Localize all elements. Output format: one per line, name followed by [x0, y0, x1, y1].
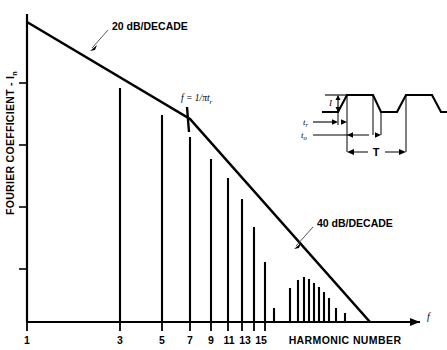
y-axis-title-subscript: n: [10, 71, 19, 76]
breakpoint-marker: [187, 107, 189, 132]
y-axis: [19, 14, 27, 322]
x-tick-label: 15: [255, 334, 267, 346]
x-tick-label: 3: [117, 334, 123, 346]
spectrum-envelope: [27, 22, 370, 322]
pulsewidth-label: to: [301, 130, 308, 141]
x-tick-label: 11: [223, 334, 234, 346]
trapezoid-waveform: [322, 95, 447, 112]
inset-guide-lines: [338, 95, 406, 152]
x-axis-title: HARMONIC NUMBER: [289, 334, 402, 346]
risetime-label: tr: [303, 117, 309, 128]
x-axis-ticks: [27, 322, 265, 331]
x-tick-label: 5: [159, 334, 165, 346]
y-axis-title-text: FOURIER COEFFICIENT - I: [4, 76, 16, 215]
x-tick-label: 13: [239, 334, 251, 346]
breakpoint-label-subscript: r: [210, 98, 213, 106]
x-tick-label: 7: [187, 334, 193, 346]
y-axis-title: FOURIER COEFFICIENT - In: [4, 71, 19, 215]
y-axis-ticks: [19, 83, 27, 269]
x-axis-tick-labels: 1 3 5 7 9 11 13 15: [24, 334, 267, 346]
spectrum-plot-svg: FOURIER COEFFICIENT - In 1 3 5 7 9 11 13…: [0, 0, 447, 350]
slope-20db-annotation: 20 dB/DECADE: [90, 20, 188, 51]
slope-40db-annotation: 40 dB/DECADE: [294, 217, 393, 249]
spectral-lines: [120, 88, 345, 322]
x-tick-label: 9: [208, 334, 214, 346]
x-axis: [27, 318, 420, 331]
waveform-inset: I tr to: [301, 95, 447, 159]
leader-line: [92, 30, 108, 48]
x-axis-arrowhead: [410, 318, 420, 326]
amplitude-label: I: [328, 98, 333, 108]
slope-20db-label: 20 dB/DECADE: [112, 20, 188, 32]
svg-text:FOURIER COEFFICIENT - In: FOURIER COEFFICIENT - In: [4, 71, 19, 215]
fourier-spectrum-figure: FOURIER COEFFICIENT - In 1 3 5 7 9 11 13…: [0, 0, 447, 350]
breakpoint-label-text: f = 1/πt: [181, 93, 210, 103]
breakpoint-label: f = 1/πtr: [181, 93, 213, 106]
x-axis-arrow-label: f: [427, 311, 431, 322]
risetime-dimension: [313, 119, 347, 124]
leader-line: [296, 227, 313, 246]
x-tick-label: 1: [24, 334, 30, 346]
period-label: T: [373, 146, 380, 158]
slope-40db-label: 40 dB/DECADE: [317, 217, 393, 229]
